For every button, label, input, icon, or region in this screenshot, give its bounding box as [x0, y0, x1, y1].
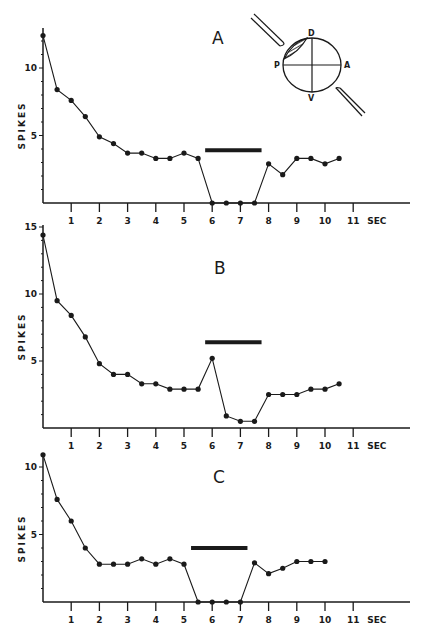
data-point — [55, 87, 60, 92]
panel-a: 5101234567891011SECSPIKESA — [17, 28, 410, 226]
data-point — [252, 200, 257, 205]
y-tick-label: 5 — [31, 530, 37, 540]
data-point — [181, 562, 186, 567]
x-tick-label: 4 — [153, 216, 159, 226]
x-axis-unit-label: SEC — [367, 216, 387, 226]
y-tick-label: 10 — [24, 289, 37, 299]
y-tick-label: 5 — [31, 356, 37, 366]
x-tick-label: 5 — [181, 441, 187, 451]
electrode-icon — [336, 88, 365, 116]
data-point — [139, 381, 144, 386]
data-point — [294, 559, 299, 564]
data-point — [40, 452, 45, 457]
y-axis-title: SPIKES — [17, 101, 27, 149]
x-tick-label: 2 — [96, 216, 102, 226]
data-point — [224, 413, 229, 418]
data-point — [224, 200, 229, 205]
panel-label: A — [212, 28, 224, 48]
panel-label: B — [214, 258, 226, 278]
x-tick-label: 8 — [265, 216, 271, 226]
data-point — [139, 150, 144, 155]
data-point — [280, 392, 285, 397]
data-point — [83, 545, 88, 550]
data-point — [337, 156, 342, 161]
panel-label: C — [213, 467, 225, 487]
x-axis-unit-label: SEC — [367, 441, 387, 451]
data-point — [196, 156, 201, 161]
data-point — [125, 562, 130, 567]
panel-c: 5101234567891011SECSPIKESC — [17, 452, 410, 625]
data-point — [111, 562, 116, 567]
x-axis-unit-label: SEC — [367, 615, 387, 625]
data-point — [196, 599, 201, 604]
x-tick-label: 8 — [265, 441, 271, 451]
data-point — [153, 381, 158, 386]
data-point — [308, 156, 313, 161]
data-point — [224, 599, 229, 604]
data-point — [294, 392, 299, 397]
y-tick-label: 10 — [24, 63, 37, 73]
diagram-label-ventral: V — [308, 94, 315, 103]
x-tick-label: 10 — [319, 216, 332, 226]
data-point — [266, 161, 271, 166]
y-tick-label: 15 — [24, 222, 37, 232]
x-tick-label: 2 — [96, 615, 102, 625]
x-tick-label: 1 — [68, 441, 74, 451]
panel-b: 510151234567891011SECSPIKESB — [17, 222, 410, 451]
x-tick-label: 3 — [124, 216, 130, 226]
diagram-label-anterior: A — [344, 61, 351, 70]
data-point — [97, 134, 102, 139]
data-point — [280, 566, 285, 571]
data-point — [210, 599, 215, 604]
x-tick-label: 3 — [124, 615, 130, 625]
x-tick-label: 9 — [294, 216, 300, 226]
data-point — [167, 387, 172, 392]
data-point — [181, 150, 186, 155]
diagram-label-posterior: P — [274, 61, 280, 70]
data-point — [125, 150, 130, 155]
x-tick-label: 9 — [294, 615, 300, 625]
x-tick-label: 5 — [181, 615, 187, 625]
x-tick-label: 11 — [347, 441, 360, 451]
data-point — [280, 172, 285, 177]
data-point — [69, 518, 74, 523]
electrode-icon — [251, 14, 284, 46]
x-tick-label: 6 — [209, 441, 215, 451]
data-point — [252, 419, 257, 424]
data-point — [252, 560, 257, 565]
data-point — [238, 419, 243, 424]
data-point — [111, 141, 116, 146]
data-point — [181, 387, 186, 392]
data-point — [294, 156, 299, 161]
data-point — [40, 33, 45, 38]
data-point — [167, 156, 172, 161]
data-point — [337, 381, 342, 386]
x-tick-label: 1 — [68, 615, 74, 625]
data-point — [111, 372, 116, 377]
x-tick-label: 7 — [237, 615, 243, 625]
data-point — [266, 571, 271, 576]
y-axis-title: SPIKES — [17, 514, 27, 562]
x-tick-label: 3 — [124, 441, 130, 451]
data-point — [238, 200, 243, 205]
x-tick-label: 6 — [209, 615, 215, 625]
data-point — [83, 114, 88, 119]
x-tick-label: 4 — [153, 615, 159, 625]
diagram-label-dorsal: D — [308, 29, 315, 38]
data-point — [97, 361, 102, 366]
lesion-region — [284, 38, 307, 59]
x-tick-label: 10 — [319, 615, 332, 625]
electrode-diagram: D V P A — [251, 14, 365, 116]
data-point — [322, 161, 327, 166]
x-tick-label: 8 — [265, 615, 271, 625]
data-point — [266, 392, 271, 397]
data-point — [308, 559, 313, 564]
x-tick-label: 5 — [181, 216, 187, 226]
x-tick-label: 2 — [96, 441, 102, 451]
data-point — [238, 599, 243, 604]
x-tick-label: 7 — [237, 216, 243, 226]
data-point — [210, 356, 215, 361]
x-tick-label: 1 — [68, 216, 74, 226]
x-tick-label: 9 — [294, 441, 300, 451]
figure: 5101234567891011SECSPIKESA51015123456789… — [0, 0, 423, 635]
